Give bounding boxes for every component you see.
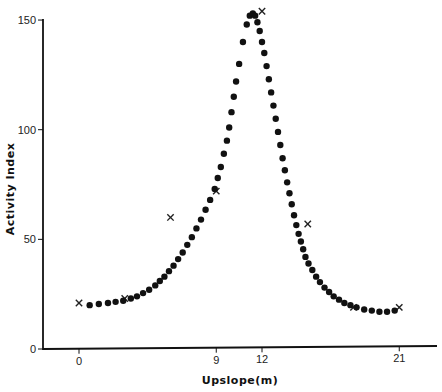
curve-dot (184, 242, 190, 248)
curve-dot (207, 197, 213, 203)
curve-dot (128, 295, 134, 301)
curve-dot (270, 102, 276, 108)
curve-dot (161, 273, 167, 279)
curve-dot (215, 175, 221, 181)
curve-dot (384, 309, 390, 315)
curve-dot (293, 222, 299, 228)
curve-dot (231, 94, 237, 100)
y-tick-label: 100 (18, 124, 36, 136)
curve-dot (277, 142, 283, 148)
curve-dot (202, 207, 208, 213)
curve-dot (302, 254, 308, 260)
x-axis-line (43, 346, 437, 349)
curve-dot (289, 201, 295, 207)
curve-dot (198, 216, 204, 222)
curve-dot (275, 129, 281, 135)
curve-dot (175, 256, 181, 262)
x-marker (305, 221, 311, 227)
curve-dot (120, 298, 126, 304)
curve-dot (305, 260, 311, 266)
curve-dot (212, 186, 218, 192)
curve-dot (86, 302, 92, 308)
curve-dot (252, 12, 258, 18)
curve-dot (273, 116, 279, 122)
y-tick-label: 150 (18, 14, 36, 26)
curve-dot (244, 21, 250, 27)
curve-dot (259, 39, 265, 45)
curve-dot (291, 212, 297, 218)
curve-dot (391, 307, 397, 313)
curve-dot (254, 19, 260, 25)
curve-dot (236, 61, 242, 67)
curve-dot (347, 302, 353, 308)
x-tick-label: 21 (393, 352, 405, 364)
curve-dot (309, 267, 315, 273)
curve-dot (240, 39, 246, 45)
x-axis: 091221 (43, 346, 437, 367)
x-marker (259, 8, 265, 14)
curve-dot (170, 262, 176, 268)
x-marker (76, 300, 82, 306)
curve-dot (96, 301, 102, 307)
x-tick-label: 0 (76, 355, 82, 367)
y-tick-label: 50 (24, 233, 36, 245)
curve-dot (286, 190, 292, 196)
curve-dot (279, 155, 285, 161)
curve-dot (282, 167, 288, 173)
y-axis: 050100150 (18, 14, 43, 355)
x-axis-title: Upslope(m) (202, 374, 279, 387)
curve-dot (353, 304, 359, 310)
curve-dot (193, 225, 199, 231)
curve-dot (330, 293, 336, 299)
observed-points (76, 8, 403, 310)
curve-dot (221, 151, 227, 157)
curve-dot (376, 309, 382, 315)
curve-dot (263, 63, 269, 69)
x-marker (167, 214, 173, 220)
curve-dot (105, 300, 111, 306)
curve-dot (336, 296, 342, 302)
curve-dot (369, 307, 375, 313)
curve-dot (298, 238, 304, 244)
curve-dot (146, 287, 152, 293)
curve-dot (112, 299, 118, 305)
curve-dot (189, 234, 195, 240)
curve-dot (226, 124, 232, 130)
y-tick-label: 0 (30, 343, 36, 355)
fitted-curve-dots (86, 10, 397, 315)
curve-dot (313, 273, 319, 279)
y-axis-title: Activity Index (4, 143, 17, 236)
curve-dot (134, 293, 140, 299)
curve-dot (284, 179, 290, 185)
curve-dot (300, 246, 306, 252)
curve-dot (257, 28, 263, 34)
curve-dot (261, 50, 267, 56)
curve-dot (228, 109, 234, 115)
curve-dot (361, 306, 367, 312)
curve-dot (224, 137, 230, 143)
curve-dot (180, 249, 186, 255)
curve-dot (218, 164, 224, 170)
curve-dot (140, 290, 146, 296)
curve-dot (233, 78, 239, 84)
curve-dot (266, 76, 272, 82)
curve-dot (317, 279, 323, 285)
curve-dot (166, 268, 172, 274)
activity-index-chart: 050100150 091221 Activity Index Upslope(… (0, 0, 442, 392)
x-tick-label: 9 (213, 354, 219, 366)
x-tick-label: 12 (256, 353, 268, 365)
curve-dot (341, 300, 347, 306)
curve-dot (295, 231, 301, 237)
plot-area (76, 8, 403, 315)
curve-dot (268, 89, 274, 95)
